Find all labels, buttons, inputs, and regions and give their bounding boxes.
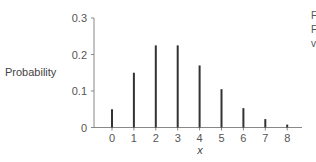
clipped-text-line-2: F [311,24,316,36]
bar-x-7 [264,119,266,127]
y-tick-label: 0.2 [72,49,87,61]
bar-x-2 [155,45,157,127]
y-tick-label: 0.1 [72,85,87,97]
y-tick-label: 0 [81,122,87,134]
x-tick-label: 5 [218,132,224,144]
clipped-text-line-3: v [311,38,316,50]
bar-x-1 [133,73,135,128]
x-tick-label: 2 [153,132,159,144]
y-axis-title: Probability [5,66,57,78]
bar-x-5 [221,89,223,127]
y-axis: 00.10.20.3 [72,12,94,134]
bar-x-6 [242,108,244,127]
x-tick-label: 4 [197,132,203,144]
y-tick-label: 0.3 [72,12,87,24]
bar-x-8 [286,125,288,128]
bar-x-0 [111,109,113,127]
bar-x-3 [177,45,179,127]
probability-chart: 00.10.20.3 012345678 Probability x [0,0,316,162]
x-tick-label: 6 [240,132,246,144]
x-tick-label: 8 [284,132,290,144]
x-axis-title: x [196,144,203,156]
bar-x-4 [199,65,201,127]
clipped-text-line-1: F [311,10,316,22]
x-tick-label: 3 [175,132,181,144]
x-tick-label: 7 [262,132,268,144]
bar-series [111,45,288,127]
x-tick-label: 0 [109,132,115,144]
x-tick-label: 1 [131,132,137,144]
x-axis: 012345678 [94,128,302,144]
